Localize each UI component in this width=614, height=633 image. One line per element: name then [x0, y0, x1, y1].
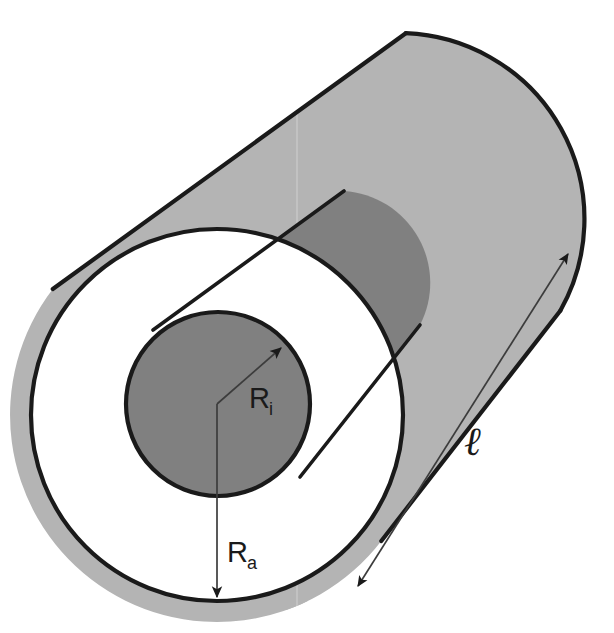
cylinder-diagram-svg: R i R a ℓ: [0, 0, 614, 633]
inner-radius-subscript: i: [269, 399, 273, 419]
inner-radius-label: R: [249, 382, 270, 414]
outer-radius-subscript: a: [247, 553, 258, 573]
hollow-cylinder-figure: R i R a ℓ: [0, 0, 614, 633]
length-label: ℓ: [464, 419, 481, 464]
outer-radius-label: R: [227, 536, 248, 568]
